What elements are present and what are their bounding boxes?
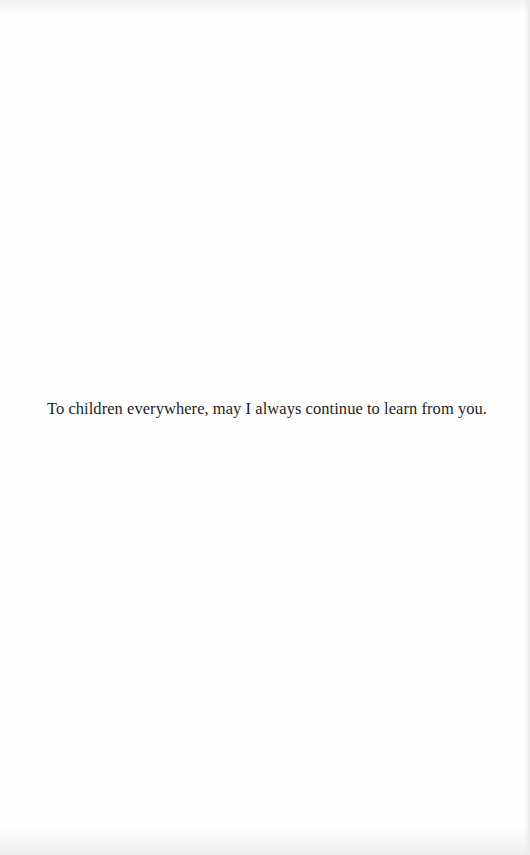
- dedication-text: To children everywhere, may I always con…: [0, 398, 530, 420]
- book-page: To children everywhere, may I always con…: [0, 0, 530, 855]
- page-edge-shadow: [524, 0, 530, 855]
